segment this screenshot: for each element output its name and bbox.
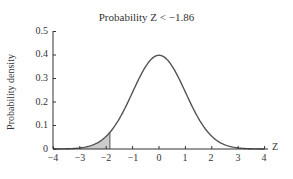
y-tick-label: 0.3 — [24, 72, 48, 83]
chart-title: Probability Z < −1.86 — [0, 11, 293, 23]
y-axis-label: Probability density — [5, 54, 16, 130]
y-tick-label: 0.1 — [24, 119, 48, 130]
x-tick-label: 4 — [254, 152, 274, 163]
x-tick-label: −2 — [96, 152, 116, 163]
x-axis-label: Z — [272, 141, 278, 152]
x-tick-label: −4 — [43, 152, 63, 163]
y-tick-label: 0.4 — [24, 48, 48, 59]
y-tick-label: 0.5 — [24, 25, 48, 36]
density-curve — [53, 55, 264, 149]
x-tick-label: 2 — [201, 152, 221, 163]
y-tick-label: 0.2 — [24, 96, 48, 107]
x-tick-label: 3 — [228, 152, 248, 163]
x-tick-label: −3 — [70, 152, 90, 163]
x-tick-label: 1 — [175, 152, 195, 163]
x-tick-label: −1 — [123, 152, 143, 163]
x-tick-label: 0 — [149, 152, 169, 163]
